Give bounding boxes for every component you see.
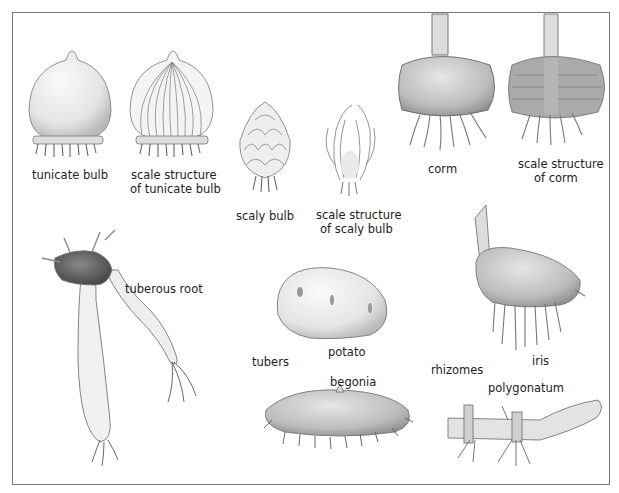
tunicate-bulb-drawing [29,51,111,157]
label-corm: corm [428,162,457,176]
polygonatum-rhizome-drawing [448,400,602,466]
scaly-bulb-drawing [240,102,290,192]
label-tunicate-bulb: tunicate bulb [32,168,108,182]
label-rhizomes: rhizomes [431,363,483,377]
label-tunicate-scale-line2: of tunicate bulb [130,182,221,196]
label-scaly-scale-line2: of scaly bulb [320,222,393,236]
tunicate-scale-drawing [130,51,213,157]
label-corm-scale-line1: scale structure [518,157,603,171]
corm-drawing [399,14,495,150]
tuberous-root-drawing [42,230,196,466]
corm-scale-drawing [509,14,605,145]
label-scaly-bulb: scaly bulb [236,209,294,223]
label-potato: potato [328,345,365,359]
label-scaly-scale-line1: scale structure [316,208,401,222]
label-corm-scale-line2: of corm [534,171,578,185]
iris-rhizome-drawing [475,205,585,350]
potato-drawing [277,268,386,339]
begonia-drawing [264,384,413,449]
label-tubers: tubers [252,355,289,369]
label-iris: iris [532,354,549,368]
label-tunicate-scale-line1: scale structure [131,168,216,182]
label-polygonatum: polygonatum [488,381,564,395]
scaly-scale-drawing [326,105,375,196]
label-tuberous-root: tuberous root [125,282,203,296]
label-begonia: begonia [330,375,376,389]
plant-storage-organs-illustration [0,0,619,493]
